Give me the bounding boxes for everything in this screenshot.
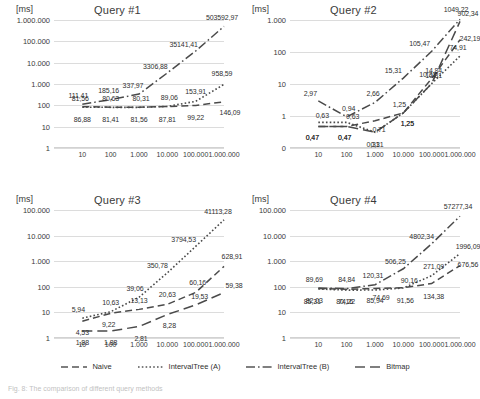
data-point-label: 185,16 [98, 86, 119, 93]
data-point-label: 4,53 [76, 329, 89, 336]
chart-title-query-4: Query #4 [236, 194, 471, 206]
y-axis-tick-label: 100.000 [259, 206, 286, 215]
gridline [290, 148, 460, 149]
legend-label: Naive [92, 362, 111, 371]
chart-panel-query-4: [ms] Query #4 1101001.00010.000100.00010… [236, 190, 471, 375]
x-axis-tick-label: 1.000.000 [444, 151, 475, 158]
y-axis-tick-label: 100 [37, 101, 50, 110]
legend-key-icon [355, 363, 381, 371]
legend-item-intervaltree-a[interactable]: IntervalTree (A) [138, 362, 221, 371]
x-axis-tick-label: 100.000 [419, 151, 444, 158]
data-point-label: 1,88 [104, 338, 117, 345]
data-point-label: 2,97 [304, 89, 317, 96]
data-point-label: 90,16 [401, 276, 418, 283]
data-point-label: 57277,34 [444, 203, 472, 210]
data-point-label: 81,41 [102, 116, 119, 123]
data-point-label: 134,38 [423, 292, 444, 299]
y-axis-tick-label: 10 [42, 122, 50, 131]
data-point-label: 242,19 [460, 34, 480, 41]
y-axis-tick-label: 1.000 [31, 80, 50, 89]
y-axis-tick-label: 10.000 [27, 58, 50, 67]
data-point-label: 39,06 [126, 285, 143, 292]
y-axis-tick-label: 10 [278, 80, 286, 89]
data-point-label: 10,31 [425, 71, 442, 78]
plot-area-4: 1101001.00010.000100.000101001.00010.000… [290, 210, 460, 338]
data-point-label: 89,69 [306, 276, 323, 283]
data-point-label: 60,16 [189, 279, 206, 286]
data-point-label: 3794,53 [171, 236, 196, 243]
data-point-label: 86,88 [74, 115, 91, 122]
data-point-label: 87,81 [159, 115, 176, 122]
x-axis-tick-label: 1.000 [366, 341, 384, 348]
data-point-label: 0,71 [372, 125, 385, 132]
data-point-label: 1996,09 [456, 242, 480, 249]
data-point-label: 74,69 [372, 294, 389, 301]
x-axis-tick-label: 10 [314, 341, 322, 348]
data-point-label: 120,31 [363, 271, 384, 278]
data-point-label: 1,25 [393, 100, 406, 107]
plot-area-3: 1101001.00010.000100.000101001.00010.000… [54, 210, 224, 338]
y-axis-tick-label: 100 [273, 48, 286, 57]
chart-title-query-1: Query #1 [0, 4, 235, 16]
x-axis-tick-label: 1.000.000 [444, 341, 475, 348]
data-point-label: 105,47 [409, 40, 430, 47]
data-point-label: 902,34 [458, 10, 479, 17]
plot-area-1: 1101001.00010.000100.0001.000.000101001.… [54, 20, 224, 148]
data-point-label: 74,22 [338, 298, 355, 305]
legend-item-intervaltree-b[interactable]: IntervalTree (B) [246, 362, 329, 371]
data-point-label: 35141,41 [169, 41, 197, 48]
data-point-label: 1,25 [401, 119, 414, 126]
y-axis-tick-label: 100 [273, 282, 286, 291]
data-point-label: 9,22 [102, 321, 115, 328]
data-point-label: 0,94 [342, 104, 355, 111]
x-axis-tick-label: 10.000 [393, 151, 414, 158]
data-point-label: 0,63 [346, 113, 359, 120]
x-axis-tick-label: 10.000 [157, 341, 178, 348]
data-point-label: 20,63 [159, 291, 176, 298]
data-point-label: 2,81 [134, 334, 147, 341]
y-axis-tick-label: 10.000 [263, 231, 286, 240]
data-point-label: 271,09 [423, 262, 444, 269]
data-point-label: 10,63 [102, 298, 119, 305]
legend-label: Bitmap [386, 362, 409, 371]
gridline [54, 148, 224, 149]
series-lines [54, 210, 224, 338]
y-axis-tick-label: 10 [42, 308, 50, 317]
data-point-label: 80,31 [132, 95, 149, 102]
data-point-label: 503592,97 [206, 14, 238, 21]
data-point-label: 111,41 [68, 92, 88, 99]
data-point-label: 337,97 [123, 82, 144, 89]
x-axis-tick-label: 100 [341, 151, 353, 158]
y-axis-tick-label: 1.000 [267, 16, 286, 25]
legend-item-naive[interactable]: Naive [61, 362, 111, 371]
y-axis-tick-label: 1 [46, 334, 50, 343]
data-point-label: 676,56 [458, 260, 479, 267]
figure-legend: NaiveIntervalTree (A)IntervalTree (B)Bit… [0, 362, 471, 371]
y-axis-tick-label: 100.000 [23, 206, 50, 215]
legend-key-icon [246, 363, 272, 371]
data-point-label: 99,22 [187, 114, 204, 121]
data-point-label: 5,94 [72, 306, 85, 313]
data-point-label: 13,13 [130, 297, 147, 304]
data-point-label: 506,25 [385, 257, 406, 264]
x-axis-tick-label: 1.000 [366, 151, 384, 158]
series-line-naive [82, 102, 224, 107]
y-axis-tick-label: 100.000 [23, 37, 50, 46]
data-point-label: 82,03 [306, 297, 323, 304]
legend-item-bitmap[interactable]: Bitmap [355, 362, 409, 371]
x-axis-tick-label: 10 [314, 151, 322, 158]
data-point-label: 0,47 [306, 134, 319, 141]
y-axis-tick-label: 10 [278, 308, 286, 317]
data-point-label: 3306,88 [143, 62, 168, 69]
y-axis-tick-label: 100 [37, 282, 50, 291]
data-point-label: 81,56 [130, 116, 147, 123]
x-axis-tick-label: 1.000.000 [208, 341, 239, 348]
y-axis-tick-label: 1 [282, 334, 286, 343]
data-point-label: 153,91 [185, 88, 206, 95]
x-axis-tick-label: 100.000 [183, 341, 208, 348]
x-axis-tick-label: 100.000 [419, 341, 444, 348]
legend-key-icon [61, 363, 87, 371]
y-axis-tick-label: 1.000 [267, 257, 286, 266]
data-point-label: 80,63 [102, 95, 119, 102]
x-axis-tick-label: 10 [78, 151, 86, 158]
